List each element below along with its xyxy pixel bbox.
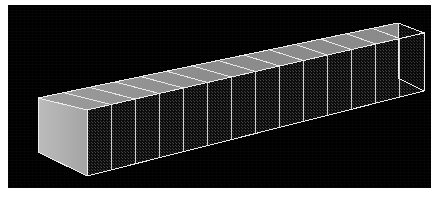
plot-area [8, 5, 431, 188]
segmented-bar-diagram [8, 5, 431, 188]
figure-root: 3D isometric segmented rectangular bar [0, 0, 439, 203]
